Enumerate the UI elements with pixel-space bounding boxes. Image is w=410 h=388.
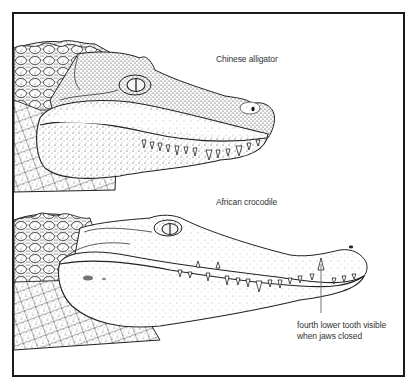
tooth-note-line-1: fourth lower tooth visible xyxy=(297,320,386,331)
alligator-nostril xyxy=(251,107,254,111)
label-african-crocodile: African crocodile xyxy=(216,197,277,207)
label-fourth-tooth-note: fourth lower tooth visible when jaws clo… xyxy=(297,320,386,342)
tooth-note-line-2: when jaws closed xyxy=(297,331,386,342)
crocodile-nostril xyxy=(349,246,353,249)
label-chinese-alligator: Chinese alligator xyxy=(216,54,278,64)
